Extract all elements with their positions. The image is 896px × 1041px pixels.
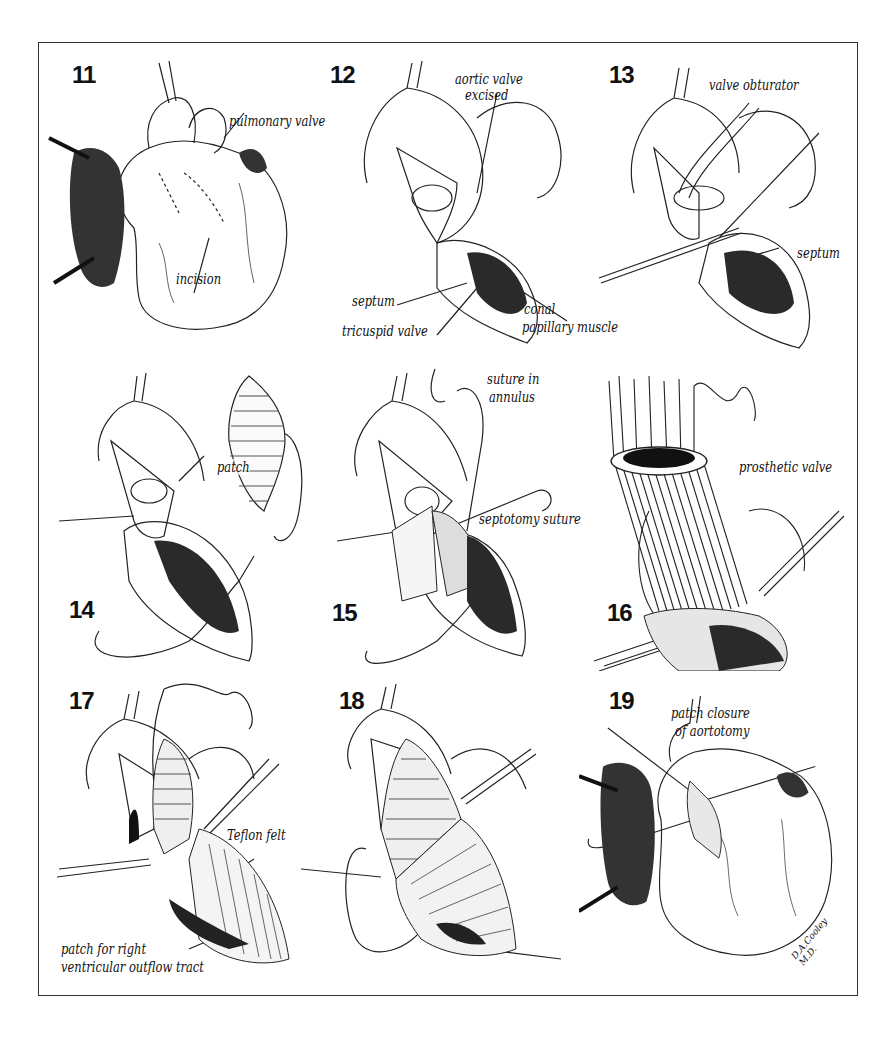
panel-number: 11 <box>72 61 95 89</box>
label-pulmonary-valve: pulmonary valve <box>229 113 325 129</box>
label-suture-in: suture in <box>487 371 539 387</box>
panel-18: 18 <box>301 679 571 989</box>
label-septotomy-suture: septotomy suture <box>479 511 581 527</box>
label-valve-obturator: valve obturator <box>709 77 799 93</box>
label-excised: excised <box>465 87 508 103</box>
label-teflon-felt: Teflon felt <box>227 827 286 843</box>
label-patch-for-right: patch for right <box>61 941 146 957</box>
label-tricuspid-valve: tricuspid valve <box>342 323 428 339</box>
panel-number: 14 <box>69 596 94 624</box>
label-of-aortotomy: of aortotomy <box>675 723 749 739</box>
label-conal: conal <box>524 301 555 317</box>
panel-number: 16 <box>607 599 632 627</box>
panel-14: 14 patch <box>39 361 309 671</box>
figure-frame: 11 pulmonary valve incision 12 aortic va… <box>38 42 858 996</box>
panel-number: 12 <box>330 61 355 89</box>
panel-number: 15 <box>332 599 357 627</box>
heart-exterior-illustration <box>39 43 309 353</box>
label-prosthetic-valve: prosthetic valve <box>739 459 832 475</box>
patch-sutured-illustration <box>301 679 571 989</box>
label-septum: septum <box>352 293 395 309</box>
label-patch: patch <box>217 459 250 475</box>
panel-11: 11 pulmonary valve incision <box>39 43 309 353</box>
patch-preparation-illustration <box>39 361 309 671</box>
label-annulus: annulus <box>489 389 535 405</box>
label-aortic-valve: aortic valve <box>455 71 523 87</box>
label-incision: incision <box>176 271 221 287</box>
panel-15: 15 suture in annulus septotomy suture <box>317 361 587 671</box>
panel-12: 12 aortic valve excised septum tricuspid… <box>317 43 587 353</box>
label-septum: septum <box>797 245 840 261</box>
panel-number: 13 <box>609 61 634 89</box>
panel-number: 19 <box>609 687 634 715</box>
panel-17: 17 Teflon felt patch for right ventricul… <box>39 679 309 989</box>
label-ventricular-outflow-tract: ventricular outflow tract <box>61 959 204 975</box>
panel-number: 18 <box>339 687 364 715</box>
label-patch-closure: patch closure <box>671 705 750 721</box>
panel-13: 13 valve obturator septum <box>589 43 859 353</box>
panel-number: 17 <box>69 687 94 715</box>
panel-16: 16 prosthetic valve <box>589 361 859 671</box>
